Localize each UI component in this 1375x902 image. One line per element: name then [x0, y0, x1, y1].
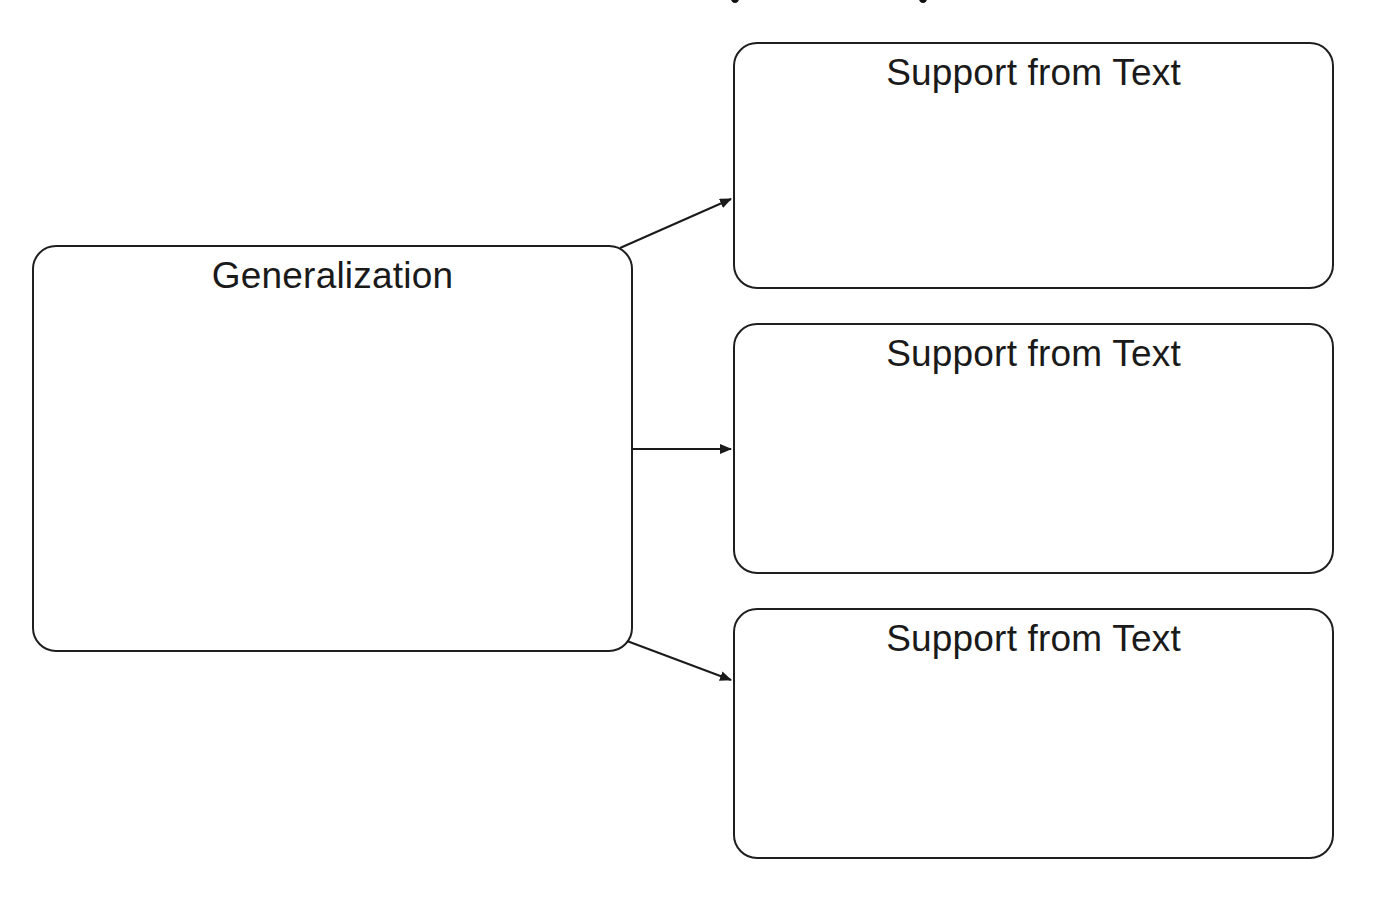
- support-box-title: Support from Text: [735, 333, 1332, 375]
- generalization-box[interactable]: Generalization: [32, 245, 633, 652]
- cropped-text-fragment: [919, 0, 927, 3]
- support-box-1[interactable]: Support from Text: [733, 42, 1334, 289]
- arrow-to-support-3: [627, 641, 731, 680]
- support-box-2[interactable]: Support from Text: [733, 323, 1334, 574]
- cropped-text-fragment: [731, 0, 739, 3]
- generalization-title: Generalization: [34, 255, 631, 297]
- support-box-title: Support from Text: [735, 52, 1332, 94]
- support-box-title: Support from Text: [735, 618, 1332, 660]
- arrow-to-support-1: [620, 199, 731, 248]
- support-box-3[interactable]: Support from Text: [733, 608, 1334, 859]
